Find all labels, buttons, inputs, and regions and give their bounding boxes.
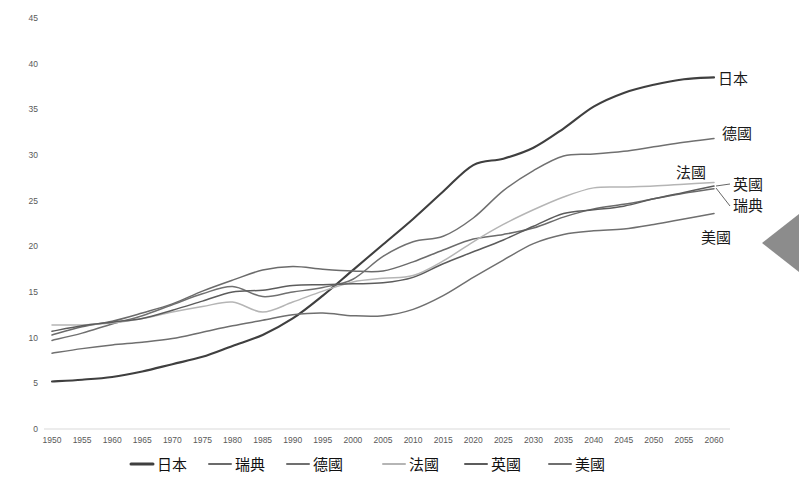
x-tick-label-2045: 2045 xyxy=(614,435,633,445)
legend-label-日本: 日本 xyxy=(157,456,187,474)
x-tick-label-2030: 2030 xyxy=(524,435,543,445)
x-tick-label-2055: 2055 xyxy=(674,435,693,445)
x-tick-label-2050: 2050 xyxy=(644,435,663,445)
x-tick-label-2020: 2020 xyxy=(464,435,483,445)
right-label-瑞典: 瑞典 xyxy=(733,197,763,215)
right-label-法國: 法國 xyxy=(676,164,706,182)
line-chart-svg: 051015202530354045 195019551960196519701… xyxy=(0,0,799,489)
x-tick-label-1970: 1970 xyxy=(163,435,182,445)
series-line-法國 xyxy=(52,182,714,325)
x-tick-label-2025: 2025 xyxy=(494,435,513,445)
x-tick-label-1990: 1990 xyxy=(283,435,302,445)
x-tick-label-2005: 2005 xyxy=(374,435,393,445)
y-tick-label-20: 20 xyxy=(29,241,39,251)
leader-line-英國 xyxy=(716,184,730,186)
legend-label-德國: 德國 xyxy=(313,456,343,474)
x-tick-label-1985: 1985 xyxy=(253,435,272,445)
x-tick-label-1975: 1975 xyxy=(193,435,212,445)
right-label-日本: 日本 xyxy=(718,70,748,88)
x-tick-label-1950: 1950 xyxy=(43,435,62,445)
y-tick-label-5: 5 xyxy=(33,378,38,388)
x-tick-label-1965: 1965 xyxy=(133,435,152,445)
legend-label-美國: 美國 xyxy=(575,456,605,474)
y-tick-label-30: 30 xyxy=(29,150,39,160)
x-tick-label-1995: 1995 xyxy=(313,435,332,445)
right-edge-arrow xyxy=(762,214,799,272)
x-axis-tick-labels: 1950195519601965197019751980198519901995… xyxy=(43,435,724,445)
chart-legend: 日本瑞典德國法國英國美國 xyxy=(131,456,605,474)
x-tick-label-1960: 1960 xyxy=(103,435,122,445)
y-tick-label-10: 10 xyxy=(29,333,39,343)
x-tick-label-1980: 1980 xyxy=(223,435,242,445)
x-tick-label-2040: 2040 xyxy=(584,435,603,445)
series-lines xyxy=(52,77,714,381)
x-tick-label-2010: 2010 xyxy=(404,435,423,445)
right-label-德國: 德國 xyxy=(722,125,752,143)
legend-label-英國: 英國 xyxy=(491,456,521,474)
leader-line-瑞典 xyxy=(716,188,730,206)
label-leader-lines xyxy=(716,184,730,206)
y-tick-label-15: 15 xyxy=(29,287,39,297)
chart-container: 051015202530354045 195019551960196519701… xyxy=(0,0,799,489)
y-tick-label-40: 40 xyxy=(29,59,39,69)
y-tick-label-45: 45 xyxy=(29,13,39,23)
x-tick-label-2000: 2000 xyxy=(343,435,362,445)
legend-label-瑞典: 瑞典 xyxy=(235,456,265,474)
right-label-美國: 美國 xyxy=(701,229,731,247)
y-tick-label-0: 0 xyxy=(33,424,38,434)
x-tick-label-2035: 2035 xyxy=(554,435,573,445)
y-tick-label-35: 35 xyxy=(29,104,39,114)
right-label-英國: 英國 xyxy=(733,176,763,194)
legend-label-法國: 法國 xyxy=(409,456,439,474)
x-tick-label-2015: 2015 xyxy=(434,435,453,445)
y-axis-tick-labels: 051015202530354045 xyxy=(29,13,39,434)
series-right-labels: 日本德國法國英國瑞典美國 xyxy=(676,70,763,247)
x-tick-label-1955: 1955 xyxy=(73,435,92,445)
x-tick-label-2060: 2060 xyxy=(705,435,724,445)
series-line-英國 xyxy=(52,186,714,331)
y-tick-label-25: 25 xyxy=(29,196,39,206)
